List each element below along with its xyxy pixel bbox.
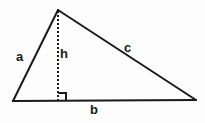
side-c-label: c (124, 41, 131, 54)
side-c-line (58, 10, 196, 100)
side-a-label: a (16, 50, 23, 63)
height-label: h (60, 47, 68, 60)
triangle-graphic (0, 0, 205, 123)
triangle-diagram: a h c b (0, 0, 205, 123)
side-b-line (13, 100, 196, 101)
side-b-label: b (90, 103, 98, 116)
